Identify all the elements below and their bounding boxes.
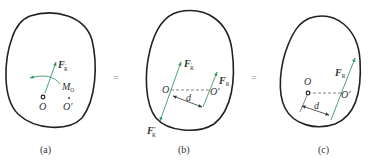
point-o-prime-marker: [68, 97, 70, 99]
label-fr-prime: F′R: [57, 59, 68, 72]
force-arrow-fr-prime: [171, 62, 181, 90]
label-fr-double-prime: F″R: [146, 125, 156, 138]
panel-a: F′R MO O O′ (a): [6, 13, 95, 156]
panel-c: FR O O′ d (c): [280, 16, 360, 156]
label-fr: FR: [218, 75, 230, 87]
label-point-o-prime: O′: [210, 86, 220, 97]
label-point-o: O: [162, 84, 169, 95]
label-point-o-prime: O′: [341, 89, 351, 100]
point-o-marker: [306, 91, 310, 95]
body-outline: [6, 13, 95, 127]
label-distance: d: [314, 100, 320, 111]
moment-arc-icon: [30, 76, 60, 84]
caption-c: (c): [318, 144, 329, 156]
label-fr-prime: F′R: [183, 58, 194, 71]
label-point-o-prime: O′: [63, 101, 73, 112]
label-fr: FR: [334, 67, 346, 79]
label-distance: d: [186, 92, 192, 103]
extension-line: [300, 93, 308, 112]
point-o-marker: [41, 95, 45, 99]
body-outline: [280, 16, 360, 127]
label-point-o: O: [39, 101, 46, 112]
equals-sign-2: =: [251, 72, 257, 83]
caption-b: (b): [178, 144, 190, 156]
panel-b: F′R FR F″R O O′ d (b): [146, 11, 233, 156]
force-reduction-diagram: F′R MO O O′ (a) = F′R FR F″R O O′ d (b) …: [0, 0, 372, 166]
label-point-o: O: [304, 76, 311, 87]
equals-sign-1: =: [113, 72, 119, 83]
caption-a: (a): [40, 144, 51, 156]
label-moment: MO: [61, 81, 74, 93]
